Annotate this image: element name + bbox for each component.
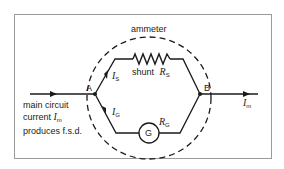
galvanometer-g-label: G (145, 128, 152, 138)
shunt-current-label: IS (112, 71, 119, 84)
galvo-resistance-subscript: G (165, 122, 170, 128)
galvo-current-label: IG (112, 107, 120, 120)
main-caption-subscript: m (57, 117, 62, 123)
shunt-subscript: S (166, 72, 170, 78)
node-a-label: A (86, 83, 92, 93)
ammeter-label: ammeter (131, 24, 167, 34)
arrow-in-icon (50, 91, 57, 97)
galvo-resistance-label: RG (159, 117, 170, 130)
shunt-label: shunt RS (132, 67, 170, 80)
node-b-label: B (204, 83, 210, 93)
main-out-current-subscript: m (246, 103, 251, 109)
shunt-branch-wire-right (170, 59, 200, 94)
shunt-current-subscript: S (115, 76, 119, 82)
node-b (198, 92, 202, 96)
shunt-resistor (133, 54, 170, 64)
main-caption-line2: current Im (23, 111, 82, 126)
main-caption-line1: main circuit (23, 100, 82, 111)
node-a (93, 92, 97, 96)
arrow-galvo-icon (102, 106, 106, 114)
shunt-text: shunt (132, 67, 154, 77)
main-caption-line2-prefix: current (23, 112, 54, 122)
main-caption: main circuit current Im produces f.s.d. (23, 100, 82, 137)
main-caption-line3: produces f.s.d. (23, 126, 82, 137)
galvo-current-subscript: G (115, 112, 120, 118)
main-out-current-label: Im (243, 98, 251, 111)
